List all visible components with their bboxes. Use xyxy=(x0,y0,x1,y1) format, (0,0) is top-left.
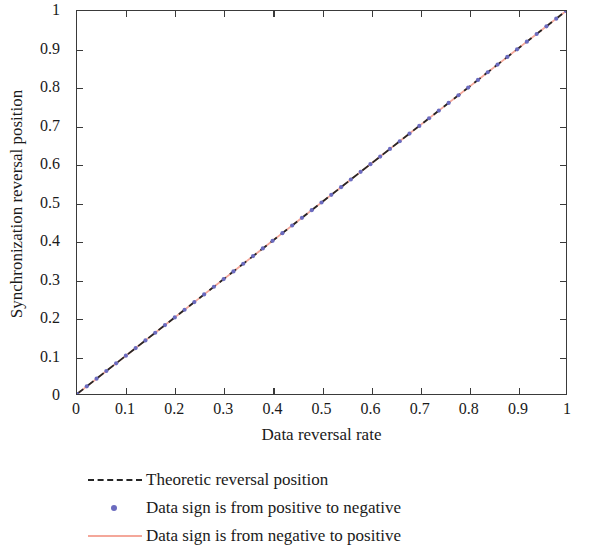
data-point xyxy=(525,40,529,44)
x-tick-label: 0.4 xyxy=(250,399,294,419)
x-axis-label: Data reversal rate xyxy=(76,425,567,445)
axis-tick xyxy=(273,11,274,17)
axis-tick xyxy=(224,11,225,17)
x-tick-label: 0.6 xyxy=(349,399,393,419)
axis-tick xyxy=(323,388,324,394)
data-point xyxy=(447,101,451,105)
x-tick-label: 0.3 xyxy=(201,399,245,419)
dashed-line-key xyxy=(84,466,146,494)
data-point xyxy=(251,254,255,258)
data-point xyxy=(153,331,157,335)
axis-tick xyxy=(77,281,83,282)
data-point xyxy=(222,277,226,281)
x-tick-label: 0.1 xyxy=(103,399,147,419)
axis-tick xyxy=(77,242,83,243)
axis-tick xyxy=(421,11,422,17)
axis-tick xyxy=(560,242,566,243)
legend-item-theoretic: Theoretic reversal position xyxy=(84,466,504,494)
y-tick-label: 0.4 xyxy=(0,231,68,251)
axis-tick xyxy=(560,165,566,166)
y-tick-label: 0.3 xyxy=(0,270,68,290)
axis-tick xyxy=(560,319,566,320)
data-point xyxy=(173,315,177,319)
y-tick-label: 1 xyxy=(0,0,68,20)
data-point xyxy=(114,361,118,365)
y-tick-label: 0.6 xyxy=(0,154,68,174)
y-tick-label: 0.7 xyxy=(0,116,68,136)
data-point xyxy=(124,354,128,358)
axis-tick xyxy=(372,388,373,394)
axis-tick xyxy=(470,11,471,17)
data-point xyxy=(202,292,206,296)
axis-tick xyxy=(77,127,83,128)
x-tick-label: 0.9 xyxy=(496,399,540,419)
data-point xyxy=(535,32,539,36)
data-point xyxy=(495,63,499,67)
data-point xyxy=(476,78,480,82)
data-point xyxy=(290,223,294,227)
axis-tick xyxy=(126,11,127,17)
chart-figure: Synchronization reversal position 00.10.… xyxy=(0,0,589,555)
data-point xyxy=(94,377,98,381)
data-point xyxy=(134,346,138,350)
axis-tick xyxy=(77,88,83,89)
axis-tick xyxy=(77,165,83,166)
legend-label: Data sign is from negative to positive xyxy=(146,522,401,550)
data-point xyxy=(271,239,275,243)
data-point xyxy=(417,124,421,128)
data-point xyxy=(280,231,284,235)
axis-tick xyxy=(126,388,127,394)
axis-tick xyxy=(421,388,422,394)
data-point xyxy=(505,55,509,59)
axis-tick xyxy=(560,50,566,51)
y-tick-label: 0.2 xyxy=(0,308,68,328)
data-point xyxy=(310,208,314,212)
y-tick-label: 0.9 xyxy=(0,39,68,59)
axis-tick xyxy=(77,50,83,51)
data-point xyxy=(163,323,167,327)
data-point xyxy=(368,162,372,166)
axis-tick xyxy=(560,88,566,89)
axis-tick xyxy=(323,11,324,17)
solid-line-key xyxy=(84,522,146,550)
x-tick-label: 1 xyxy=(545,399,589,419)
axis-tick xyxy=(519,11,520,17)
axis-tick xyxy=(560,127,566,128)
chart-legend: Theoretic reversal position Data sign is… xyxy=(84,466,504,550)
axis-tick xyxy=(560,204,566,205)
data-point xyxy=(329,193,333,197)
axis-tick xyxy=(175,11,176,17)
data-point xyxy=(104,369,108,373)
x-tick-label: 0.5 xyxy=(300,399,344,419)
dot-marker-key xyxy=(84,494,146,522)
data-point xyxy=(437,108,441,112)
axis-tick xyxy=(77,204,83,205)
data-point xyxy=(554,17,558,21)
data-point xyxy=(319,200,323,204)
x-tick-label: 0.7 xyxy=(398,399,442,419)
data-point xyxy=(486,70,490,74)
data-point xyxy=(398,139,402,143)
data-point xyxy=(300,216,304,220)
data-point xyxy=(339,185,343,189)
data-point xyxy=(388,147,392,151)
data-point xyxy=(85,384,89,388)
x-tick-label: 0.2 xyxy=(152,399,196,419)
data-point xyxy=(241,262,245,266)
y-tick-label: 0.5 xyxy=(0,193,68,213)
legend-label: Theoretic reversal position xyxy=(146,466,328,494)
data-point xyxy=(544,24,548,28)
data-point xyxy=(212,285,216,289)
data-point xyxy=(456,93,460,97)
x-tick-label: 0.8 xyxy=(447,399,491,419)
plot-svg xyxy=(77,11,566,394)
axis-tick xyxy=(560,358,566,359)
axis-tick xyxy=(273,388,274,394)
axis-tick xyxy=(77,358,83,359)
axis-tick xyxy=(224,388,225,394)
data-point xyxy=(143,338,147,342)
axis-tick xyxy=(519,388,520,394)
data-point xyxy=(349,177,353,181)
data-point xyxy=(359,170,363,174)
legend-item-negative-to-positive: Data sign is from negative to positive xyxy=(84,522,504,550)
